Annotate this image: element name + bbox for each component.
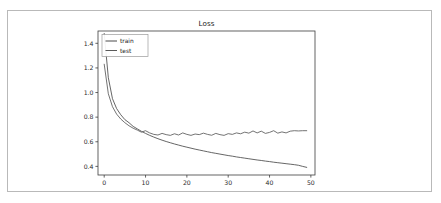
x-tick-label: 10 <box>142 179 150 186</box>
y-tick-label: 0.6 <box>84 138 94 145</box>
chart-legend: traintest <box>102 35 148 57</box>
x-tick-label: 20 <box>183 179 191 186</box>
screenshot-page: 0.40.60.81.01.21.401020304050Losstrainte… <box>0 0 441 203</box>
x-tick-label: 40 <box>266 179 274 186</box>
y-tick-label: 1.2 <box>84 64 94 71</box>
x-tick-label: 30 <box>224 179 232 186</box>
y-tick-label: 0.8 <box>84 113 94 120</box>
series-line-test <box>104 64 307 135</box>
y-tick-label: 1.4 <box>84 40 94 47</box>
loss-line-chart: 0.40.60.81.01.21.401020304050Losstrainte… <box>8 11 431 191</box>
matplotlib-figure: 0.40.60.81.01.21.401020304050Losstrainte… <box>8 11 431 191</box>
x-tick-label: 50 <box>307 179 315 186</box>
x-tick-label: 0 <box>102 179 106 186</box>
legend-label-train: train <box>120 38 134 44</box>
y-tick-label: 0.4 <box>84 163 94 170</box>
legend-label-test: test <box>120 48 132 54</box>
chart-title: Loss <box>199 19 215 28</box>
y-tick-label: 1.0 <box>84 89 94 96</box>
